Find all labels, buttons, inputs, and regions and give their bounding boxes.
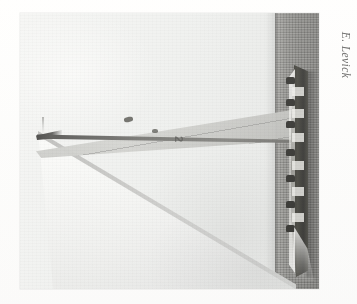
deck-highlight	[292, 133, 304, 142]
horizon-line	[275, 13, 278, 289]
crew-figure	[286, 149, 295, 156]
deck-highlight	[292, 213, 304, 222]
sail-marking: 2	[172, 130, 186, 148]
photographer-credit: E. Levick	[338, 22, 354, 88]
deck-highlight	[292, 187, 304, 196]
crew-figure	[286, 77, 295, 84]
photographer-credit-text: E. Levick	[340, 32, 352, 78]
crew-figure	[286, 201, 295, 208]
deck-highlight	[292, 161, 304, 170]
photographic-plate: 2 E. Levick	[0, 0, 357, 304]
horizon-haze	[265, 13, 275, 289]
crew-figure	[286, 175, 295, 182]
photograph: 2	[20, 13, 319, 289]
crew-figure	[286, 121, 295, 128]
crew-figure	[286, 225, 295, 232]
deck-highlight	[292, 109, 304, 118]
deck-highlight	[292, 87, 304, 96]
crew-figure	[286, 99, 295, 106]
sail-fitting-lower	[152, 129, 158, 133]
